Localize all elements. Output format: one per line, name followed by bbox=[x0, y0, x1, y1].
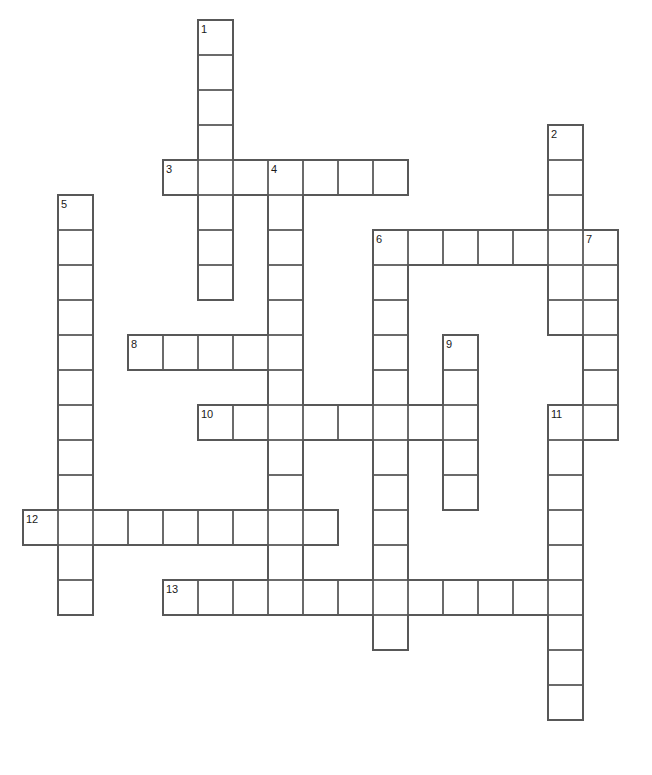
grid-cell-c5-r6[interactable] bbox=[198, 230, 233, 265]
grid-cell-c4-r4[interactable] bbox=[163, 160, 198, 195]
grid-cell-c16-r7[interactable] bbox=[583, 265, 618, 300]
grid-cell-c1-r6[interactable] bbox=[58, 230, 93, 265]
grid-cell-c15-r18[interactable] bbox=[548, 650, 583, 685]
grid-cell-c6-r16[interactable] bbox=[233, 580, 268, 615]
grid-cell-c16-r11[interactable] bbox=[583, 405, 618, 440]
grid-cell-c7-r7[interactable] bbox=[268, 265, 303, 300]
grid-cell-c5-r4[interactable] bbox=[198, 160, 233, 195]
grid-cell-c12-r13[interactable] bbox=[443, 475, 478, 510]
grid-cell-c12-r16[interactable] bbox=[443, 580, 478, 615]
grid-cell-c1-r14[interactable] bbox=[58, 510, 93, 545]
grid-cell-c10-r16[interactable] bbox=[373, 580, 408, 615]
grid-cell-c7-r11[interactable] bbox=[268, 405, 303, 440]
grid-cell-c10-r6[interactable] bbox=[373, 230, 408, 265]
grid-cell-c15-r3[interactable] bbox=[548, 125, 583, 160]
grid-cell-c16-r8[interactable] bbox=[583, 300, 618, 335]
grid-cell-c9-r16[interactable] bbox=[338, 580, 373, 615]
grid-cell-c11-r16[interactable] bbox=[408, 580, 443, 615]
grid-cell-c12-r11[interactable] bbox=[443, 405, 478, 440]
grid-cell-c1-r9[interactable] bbox=[58, 335, 93, 370]
grid-cell-c15-r11[interactable] bbox=[548, 405, 583, 440]
grid-cell-c5-r16[interactable] bbox=[198, 580, 233, 615]
grid-cell-c1-r15[interactable] bbox=[58, 545, 93, 580]
grid-cell-c7-r12[interactable] bbox=[268, 440, 303, 475]
grid-cell-c7-r14[interactable] bbox=[268, 510, 303, 545]
grid-cell-c7-r4[interactable] bbox=[268, 160, 303, 195]
grid-cell-c5-r11[interactable] bbox=[198, 405, 233, 440]
grid-cell-c4-r14[interactable] bbox=[163, 510, 198, 545]
grid-cell-c1-r8[interactable] bbox=[58, 300, 93, 335]
grid-cell-c5-r7[interactable] bbox=[198, 265, 233, 300]
grid-cell-c10-r13[interactable] bbox=[373, 475, 408, 510]
grid-cell-c1-r12[interactable] bbox=[58, 440, 93, 475]
grid-cell-c15-r12[interactable] bbox=[548, 440, 583, 475]
grid-cell-c10-r11[interactable] bbox=[373, 405, 408, 440]
grid-cell-c13-r6[interactable] bbox=[478, 230, 513, 265]
grid-cell-c6-r9[interactable] bbox=[233, 335, 268, 370]
grid-cell-c6-r14[interactable] bbox=[233, 510, 268, 545]
grid-cell-c16-r10[interactable] bbox=[583, 370, 618, 405]
grid-cell-c11-r6[interactable] bbox=[408, 230, 443, 265]
grid-cell-c7-r10[interactable] bbox=[268, 370, 303, 405]
grid-cell-c10-r12[interactable] bbox=[373, 440, 408, 475]
grid-cell-c15-r5[interactable] bbox=[548, 195, 583, 230]
grid-cell-c3-r9[interactable] bbox=[128, 335, 163, 370]
grid-cell-c7-r15[interactable] bbox=[268, 545, 303, 580]
grid-cell-c15-r16[interactable] bbox=[548, 580, 583, 615]
grid-cell-c10-r15[interactable] bbox=[373, 545, 408, 580]
grid-cell-c15-r17[interactable] bbox=[548, 615, 583, 650]
grid-cell-c10-r4[interactable] bbox=[373, 160, 408, 195]
grid-cell-c5-r9[interactable] bbox=[198, 335, 233, 370]
grid-cell-c8-r16[interactable] bbox=[303, 580, 338, 615]
grid-cell-c15-r8[interactable] bbox=[548, 300, 583, 335]
grid-cell-c10-r14[interactable] bbox=[373, 510, 408, 545]
crossword-grid[interactable]: 12345678910111213 bbox=[0, 0, 652, 775]
grid-cell-c7-r8[interactable] bbox=[268, 300, 303, 335]
grid-cell-c9-r4[interactable] bbox=[338, 160, 373, 195]
grid-cell-c7-r13[interactable] bbox=[268, 475, 303, 510]
grid-cell-c10-r7[interactable] bbox=[373, 265, 408, 300]
grid-cell-c3-r14[interactable] bbox=[128, 510, 163, 545]
grid-cell-c4-r9[interactable] bbox=[163, 335, 198, 370]
grid-cell-c7-r16[interactable] bbox=[268, 580, 303, 615]
grid-cell-c5-r2[interactable] bbox=[198, 90, 233, 125]
grid-cell-c15-r4[interactable] bbox=[548, 160, 583, 195]
grid-cell-c10-r17[interactable] bbox=[373, 615, 408, 650]
grid-cell-c16-r9[interactable] bbox=[583, 335, 618, 370]
grid-cell-c5-r3[interactable] bbox=[198, 125, 233, 160]
grid-cell-c15-r7[interactable] bbox=[548, 265, 583, 300]
grid-cell-c5-r14[interactable] bbox=[198, 510, 233, 545]
grid-cell-c7-r6[interactable] bbox=[268, 230, 303, 265]
grid-cell-c7-r5[interactable] bbox=[268, 195, 303, 230]
grid-cell-c8-r14[interactable] bbox=[303, 510, 338, 545]
grid-cell-c1-r13[interactable] bbox=[58, 475, 93, 510]
grid-cell-c15-r6[interactable] bbox=[548, 230, 583, 265]
grid-cell-c5-r1[interactable] bbox=[198, 55, 233, 90]
grid-cell-c14-r16[interactable] bbox=[513, 580, 548, 615]
grid-cell-c8-r4[interactable] bbox=[303, 160, 338, 195]
grid-cell-c14-r6[interactable] bbox=[513, 230, 548, 265]
grid-cell-c1-r11[interactable] bbox=[58, 405, 93, 440]
grid-cell-c1-r7[interactable] bbox=[58, 265, 93, 300]
grid-cell-c4-r16[interactable] bbox=[163, 580, 198, 615]
grid-cell-c1-r16[interactable] bbox=[58, 580, 93, 615]
grid-cell-c12-r12[interactable] bbox=[443, 440, 478, 475]
grid-cell-c7-r9[interactable] bbox=[268, 335, 303, 370]
grid-cell-c8-r11[interactable] bbox=[303, 405, 338, 440]
grid-cell-c15-r15[interactable] bbox=[548, 545, 583, 580]
grid-cell-c12-r10[interactable] bbox=[443, 370, 478, 405]
grid-cell-c6-r11[interactable] bbox=[233, 405, 268, 440]
grid-cell-c15-r13[interactable] bbox=[548, 475, 583, 510]
grid-cell-c1-r5[interactable] bbox=[58, 195, 93, 230]
grid-cell-c5-r0[interactable] bbox=[198, 20, 233, 55]
grid-cell-c5-r5[interactable] bbox=[198, 195, 233, 230]
grid-cell-c15-r19[interactable] bbox=[548, 685, 583, 720]
grid-cell-c13-r16[interactable] bbox=[478, 580, 513, 615]
grid-cell-c10-r9[interactable] bbox=[373, 335, 408, 370]
grid-cell-c11-r11[interactable] bbox=[408, 405, 443, 440]
grid-cell-c9-r11[interactable] bbox=[338, 405, 373, 440]
grid-cell-c10-r8[interactable] bbox=[373, 300, 408, 335]
grid-cell-c15-r14[interactable] bbox=[548, 510, 583, 545]
grid-cell-c2-r14[interactable] bbox=[93, 510, 128, 545]
grid-cell-c1-r10[interactable] bbox=[58, 370, 93, 405]
